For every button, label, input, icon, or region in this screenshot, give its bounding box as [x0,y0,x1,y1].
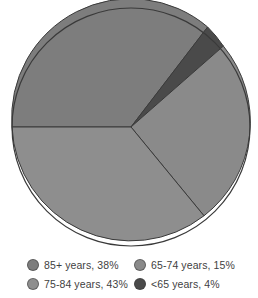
legend-item-under-65[interactable]: <65 years, 4% [112,275,258,293]
chart-legend: 85+ years, 38% 65-74 years, 15% 75-84 ye… [0,252,258,298]
legend-row: 75-84 years, 43% <65 years, 4% [0,275,258,293]
pie-chart-figure: 85+ years, 38% 65-74 years, 15% 75-84 ye… [0,0,258,298]
legend-swatch-85-plus-icon [27,259,39,271]
legend-label-under-65: <65 years, 4% [151,278,220,290]
legend-swatch-75-84-icon [27,278,39,290]
legend-swatch-under-65-icon [134,278,146,290]
legend-swatch-65-74-icon [134,259,146,271]
legend-row: 85+ years, 38% 65-74 years, 15% [0,256,258,274]
legend-label-85-plus: 85+ years, 38% [44,259,119,271]
legend-item-85-plus[interactable]: 85+ years, 38% [0,256,112,274]
pie-chart-plot-area [0,0,258,252]
pie-chart-svg [0,0,258,252]
legend-item-65-74[interactable]: 65-74 years, 15% [112,256,258,274]
legend-label-65-74: 65-74 years, 15% [151,259,235,271]
legend-item-75-84[interactable]: 75-84 years, 43% [0,275,112,293]
